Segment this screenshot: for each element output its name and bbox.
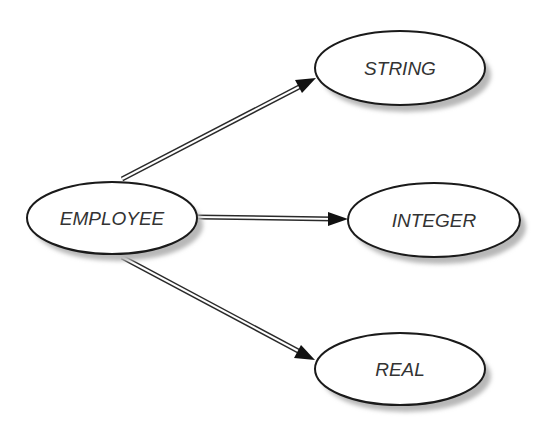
arrowhead-icon [328,212,348,226]
edge-employee-integer [197,212,348,226]
arrowhead-icon [295,78,316,93]
node-label: INTEGER [392,210,477,231]
diagram-canvas: EMPLOYEE STRING INTEGER REAL [0,0,551,427]
node-label: STRING [364,58,436,79]
node-string[interactable]: STRING [315,31,491,112]
node-label: REAL [375,359,425,380]
node-integer[interactable]: INTEGER [348,183,526,264]
node-employee[interactable]: EMPLOYEE [27,182,203,261]
node-label: EMPLOYEE [60,208,165,229]
edge-employee-real [122,257,315,360]
node-real[interactable]: REAL [315,333,491,412]
arrowhead-icon [294,345,315,360]
edge-employee-string [122,78,316,179]
